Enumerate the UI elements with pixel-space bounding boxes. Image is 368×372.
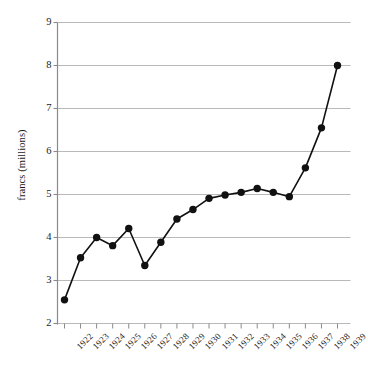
- data-point: [189, 206, 196, 213]
- data-point: [61, 296, 68, 303]
- y-axis-tick-label: 8: [36, 60, 52, 70]
- data-point: [157, 239, 164, 246]
- data-point: [318, 124, 325, 131]
- data-point: [254, 185, 261, 192]
- data-point: [221, 191, 228, 198]
- y-axis-tick-label: 6: [36, 146, 52, 156]
- data-point: [205, 195, 212, 202]
- gridlines-group: [58, 23, 351, 324]
- data-point: [302, 164, 309, 171]
- y-axis-tick-label: 4: [36, 232, 52, 242]
- data-point: [141, 262, 148, 269]
- data-series-line: [65, 66, 338, 300]
- y-axis-tick-label: 9: [36, 17, 52, 27]
- data-point: [93, 234, 100, 241]
- data-point: [286, 193, 293, 200]
- x-axis-ticks: [65, 324, 338, 329]
- data-point-markers: [61, 62, 341, 304]
- y-axis-tick-label: 5: [36, 189, 52, 199]
- data-point: [334, 62, 341, 69]
- data-point: [77, 254, 84, 261]
- data-point: [270, 189, 277, 196]
- y-axis-tick-label: 7: [36, 103, 52, 113]
- data-point: [125, 225, 132, 232]
- y-axis-tick-label: 3: [36, 275, 52, 285]
- y-axis-tick-label: 2: [36, 318, 52, 328]
- data-point: [109, 242, 116, 249]
- data-point: [173, 215, 180, 222]
- data-point: [237, 189, 244, 196]
